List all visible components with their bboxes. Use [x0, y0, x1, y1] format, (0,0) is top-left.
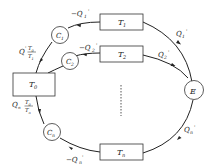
svg-text:2: 2 — [122, 54, 126, 60]
label-q1-in: Q 1 ' — [176, 28, 187, 39]
svg-text:n: n — [190, 130, 193, 135]
svg-text:1: 1 — [182, 34, 185, 39]
edge-c1-to-t0 — [36, 42, 52, 73]
label-q1-out: −Q 1 ' — [71, 8, 89, 19]
arrow-qn — [177, 136, 182, 140]
carnot-engine-c1: C 1 — [52, 27, 69, 44]
svg-text:n: n — [79, 160, 82, 165]
svg-text:2: 2 — [91, 48, 95, 53]
svg-text:2: 2 — [70, 62, 74, 67]
carnot-engine-c2: C 2 — [62, 53, 79, 70]
svg-text:': ' — [186, 28, 187, 34]
carnot-engine-cn: C n — [44, 124, 61, 141]
arrow-q2 — [171, 63, 176, 66]
svg-text:−Q: −Q — [66, 156, 78, 164]
svg-text:n: n — [52, 133, 55, 138]
label-qn-in: Q n ' — [184, 124, 195, 135]
svg-text:1: 1 — [84, 14, 87, 19]
label-qn-to-t0: Q n T 0 T n — [12, 99, 33, 115]
svg-text:': ' — [82, 154, 83, 160]
reservoir-t1: T 1 — [100, 14, 143, 30]
carnot-cycle-diagram: T 1 T 2 T n T 0 C 1 C 2 C n E −Q 1 — [0, 0, 211, 168]
svg-text:E: E — [189, 87, 196, 96]
svg-text:': ' — [96, 42, 97, 48]
svg-text:−Q: −Q — [71, 10, 83, 18]
arrow-q1 — [176, 40, 181, 45]
arrow-q-to-t0 — [39, 58, 43, 63]
reservoir-tn: T n — [100, 144, 143, 160]
svg-text:1: 1 — [123, 22, 126, 28]
label-q2-in: Q 2 ' — [158, 49, 169, 60]
svg-text:1: 1 — [32, 57, 34, 61]
svg-text:−Q: −Q — [79, 44, 91, 52]
label-q2-out: −Q 2 ' — [79, 42, 97, 53]
svg-text:': ' — [168, 49, 169, 55]
arrow-qn-out — [69, 147, 74, 151]
reservoir-t0: T 0 — [13, 73, 55, 96]
label-qn-out: −Q n ' — [66, 154, 83, 165]
svg-text:n: n — [18, 105, 21, 110]
svg-text:': ' — [88, 8, 89, 14]
svg-text:n: n — [29, 111, 32, 115]
engine-e: E — [185, 81, 204, 100]
edge-c2-to-t0 — [48, 66, 63, 73]
reservoir-t2: T 2 — [100, 46, 143, 62]
svg-text:': ' — [194, 124, 195, 130]
edge-t1-to-c1 — [68, 22, 100, 28]
label-q1-to-t0: Q ' T 0 T 1 — [19, 45, 36, 61]
svg-text:1: 1 — [61, 36, 64, 41]
edge-t2-to-c2 — [75, 53, 100, 56]
svg-text:2: 2 — [163, 55, 167, 60]
edge-cn-to-tn — [60, 138, 100, 152]
svg-text:': ' — [25, 45, 26, 51]
svg-text:n: n — [122, 152, 125, 158]
